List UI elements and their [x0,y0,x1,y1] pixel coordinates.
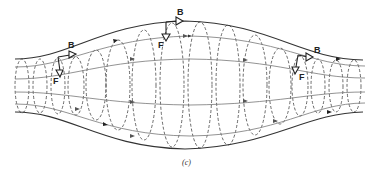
label-b-left: B [68,40,75,50]
envelope-arrows [103,39,341,126]
vector-pair-left [56,51,76,77]
label-f-top: F [158,40,164,50]
label-f-left: F [53,76,59,86]
b-arrow-right-icon [306,53,313,61]
magnetic-bottle-diagram: B F B F B F (c) [0,0,382,182]
label-b-right: B [314,45,321,55]
label-f-right: F [299,72,305,82]
particle-orbits [15,22,361,148]
b-arrow-top-icon [176,17,183,25]
label-b-top: B [177,7,184,17]
field-direction-arrows [75,34,278,138]
figure-caption: (c) [182,158,191,167]
